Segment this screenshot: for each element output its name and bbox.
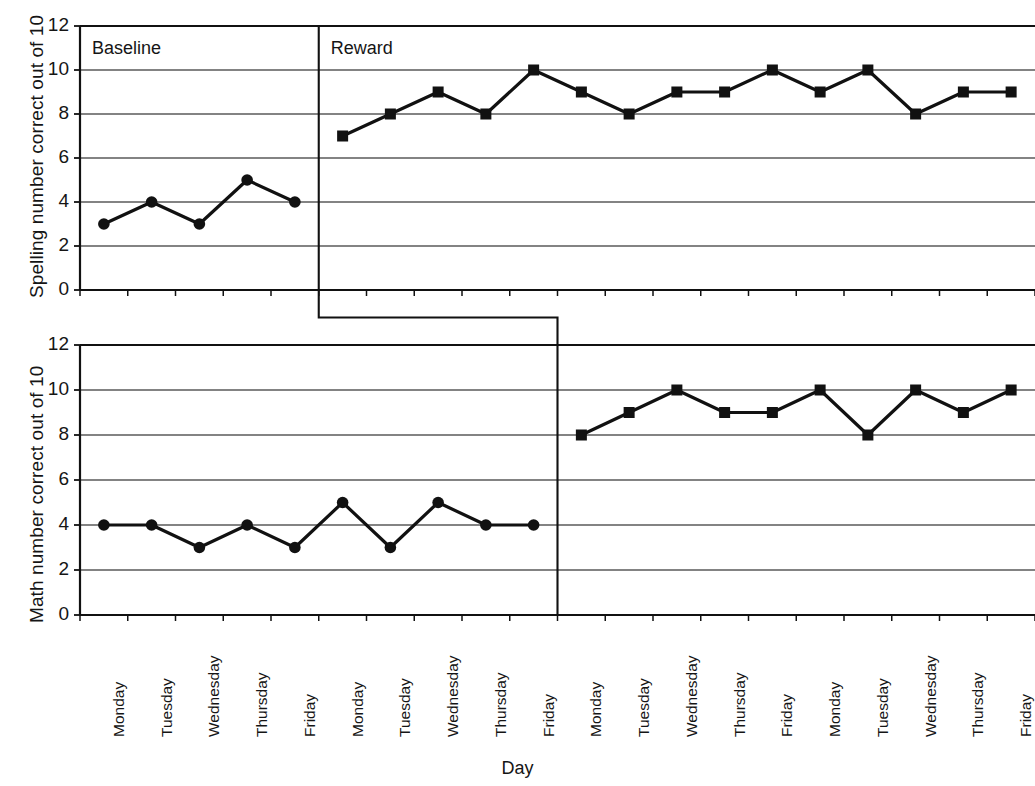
data-point-math-reward-14[interactable] (767, 407, 778, 418)
data-point-math-reward-13[interactable] (719, 407, 730, 418)
data-point-math-baseline-5[interactable] (337, 497, 349, 509)
data-point-spelling-reward-10[interactable] (576, 87, 587, 98)
x-axis-label-2-wednesday: Wednesday (205, 655, 223, 737)
data-point-math-baseline-3[interactable] (241, 519, 253, 531)
x-axis-label-16-tuesday: Tuesday (874, 678, 892, 737)
x-axis-label-1-tuesday: Tuesday (158, 678, 176, 737)
y-tick-label-spelling-4: 4 (58, 190, 69, 212)
data-point-spelling-reward-16[interactable] (862, 65, 873, 76)
x-axis-label-11-tuesday: Tuesday (635, 678, 653, 737)
y-tick-label-spelling-2: 2 (58, 234, 69, 256)
data-point-spelling-reward-7[interactable] (433, 87, 444, 98)
data-point-math-baseline-6[interactable] (385, 542, 397, 554)
x-axis-label-19-friday: Friday (1017, 694, 1035, 737)
x-axis-label-8-thursday: Thursday (492, 672, 510, 737)
series-line-spelling-reward (343, 70, 1012, 136)
x-axis-label-17-wednesday: Wednesday (922, 655, 940, 737)
data-point-spelling-reward-6[interactable] (385, 109, 396, 120)
data-point-spelling-reward-13[interactable] (719, 87, 730, 98)
x-axis-label-7-wednesday: Wednesday (444, 655, 462, 737)
data-point-spelling-baseline-2[interactable] (194, 218, 206, 230)
x-axis-label-6-tuesday: Tuesday (396, 678, 414, 737)
data-point-math-baseline-4[interactable] (289, 542, 301, 554)
x-axis-label-9-friday: Friday (540, 694, 558, 737)
data-point-math-baseline-8[interactable] (480, 519, 492, 531)
x-axis-label-15-monday: Monday (826, 682, 844, 737)
data-point-spelling-reward-17[interactable] (910, 109, 921, 120)
multiple-baseline-chart: 024681012BaselineRewardSpelling number c… (0, 0, 1035, 786)
y-tick-label-spelling-8: 8 (58, 102, 69, 124)
y-tick-label-spelling-6: 6 (58, 146, 69, 168)
data-point-spelling-reward-5[interactable] (337, 131, 348, 142)
x-axis-label-0-monday: Monday (110, 682, 128, 737)
phase-label-reward: Reward (331, 38, 393, 59)
data-point-math-baseline-7[interactable] (432, 497, 444, 509)
data-point-math-baseline-9[interactable] (528, 519, 540, 531)
data-point-spelling-reward-11[interactable] (624, 109, 635, 120)
data-point-math-reward-10[interactable] (576, 430, 587, 441)
y-tick-label-math-2: 2 (58, 558, 69, 580)
data-point-spelling-reward-8[interactable] (480, 109, 491, 120)
x-axis-title: Day (0, 758, 1035, 779)
data-point-spelling-reward-9[interactable] (528, 65, 539, 76)
data-point-math-reward-15[interactable] (815, 385, 826, 396)
data-point-spelling-reward-14[interactable] (767, 65, 778, 76)
data-point-math-reward-19[interactable] (1006, 385, 1017, 396)
data-point-spelling-baseline-3[interactable] (241, 174, 253, 186)
y-tick-label-math-6: 6 (58, 468, 69, 490)
x-axis-label-10-monday: Monday (587, 682, 605, 737)
y-tick-label-spelling-10: 10 (48, 58, 69, 80)
data-point-spelling-baseline-4[interactable] (289, 196, 301, 208)
data-point-spelling-baseline-0[interactable] (98, 218, 110, 230)
data-point-math-reward-12[interactable] (671, 385, 682, 396)
data-point-spelling-reward-19[interactable] (1006, 87, 1017, 98)
x-axis-label-3-thursday: Thursday (253, 672, 271, 737)
y-tick-label-spelling-0: 0 (58, 278, 69, 300)
y-tick-label-math-10: 10 (48, 378, 69, 400)
data-point-math-baseline-1[interactable] (146, 519, 158, 531)
x-axis-label-18-thursday: Thursday (969, 672, 987, 737)
series-line-math-reward (581, 390, 1011, 435)
x-axis-label-4-friday: Friday (301, 694, 319, 737)
x-axis-label-14-friday: Friday (778, 694, 796, 737)
data-point-math-reward-16[interactable] (862, 430, 873, 441)
data-point-math-reward-18[interactable] (958, 407, 969, 418)
phase-label-baseline: Baseline (92, 38, 161, 59)
y-tick-label-math-12: 12 (48, 333, 69, 355)
x-axis-label-5-monday: Monday (349, 682, 367, 737)
y-tick-label-math-4: 4 (58, 513, 69, 535)
chart-canvas (0, 0, 1035, 786)
y-tick-label-math-0: 0 (58, 603, 69, 625)
data-point-math-baseline-2[interactable] (194, 542, 206, 554)
data-point-math-baseline-0[interactable] (98, 519, 110, 531)
y-axis-title-spelling: Spelling number correct out of 10 (26, 15, 48, 298)
y-tick-label-spelling-12: 12 (48, 14, 69, 36)
y-axis-title-math: Math number correct out of 10 (26, 366, 48, 623)
data-point-spelling-reward-15[interactable] (815, 87, 826, 98)
data-point-spelling-reward-12[interactable] (671, 87, 682, 98)
x-axis-label-13-thursday: Thursday (731, 672, 749, 737)
x-axis-label-12-wednesday: Wednesday (683, 655, 701, 737)
y-tick-label-math-8: 8 (58, 423, 69, 445)
data-point-math-reward-11[interactable] (624, 407, 635, 418)
data-point-spelling-baseline-1[interactable] (146, 196, 158, 208)
data-point-math-reward-17[interactable] (910, 385, 921, 396)
data-point-spelling-reward-18[interactable] (958, 87, 969, 98)
